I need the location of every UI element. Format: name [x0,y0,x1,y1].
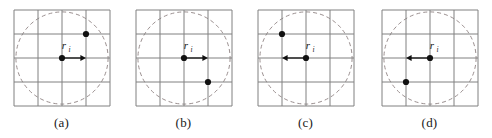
vector-arrow-head [80,55,86,61]
vector-label: r [430,39,435,51]
vector-label: r [62,39,67,51]
origin-particle-dot [181,55,187,61]
vector-label-subscript: i [437,45,439,54]
panel-c: ri(c) [244,0,367,138]
neighbor-particle-dot [205,79,211,85]
vector-label: r [306,39,311,51]
neighbor-particle-dot [403,79,409,85]
origin-particle-dot [427,55,433,61]
vector-arrow-head [406,55,412,61]
vector-arrow-head [202,55,208,61]
vector-label: r [184,39,189,51]
figure-root: ri(a)ri(b)ri(c)ri(d) [0,0,492,138]
panel-d: ri(d) [368,0,491,138]
origin-particle-dot [303,55,309,61]
origin-particle-dot [59,55,65,61]
panel-b: ri(b) [122,0,245,138]
neighbor-particle-dot [83,31,89,37]
panel-caption-d: (d) [368,115,491,131]
vector-label-subscript: i [69,45,71,54]
panel-a: ri(a) [0,0,123,138]
vector-label-subscript: i [313,45,315,54]
vector-label-subscript: i [191,45,193,54]
neighbor-particle-dot [279,31,285,37]
panel-caption-c: (c) [244,115,367,131]
panel-caption-a: (a) [0,115,123,131]
vector-arrow-head [282,55,288,61]
panel-caption-b: (b) [122,115,245,131]
